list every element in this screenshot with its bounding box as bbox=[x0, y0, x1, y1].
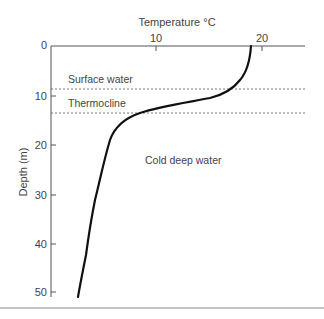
x-tick-label-20: 20 bbox=[256, 32, 268, 44]
y-axis-label: Depth (m) bbox=[17, 148, 29, 197]
surface-water-label: Surface water bbox=[68, 73, 133, 85]
y-tick-label-10: 10 bbox=[35, 90, 47, 102]
thermocline-label: Thermocline bbox=[68, 97, 126, 109]
y-tick-label-40: 40 bbox=[35, 238, 47, 250]
y-tick-label-20: 20 bbox=[35, 139, 47, 151]
y-tick-label-50: 50 bbox=[35, 286, 47, 298]
cold-deep-water-label: Cold deep water bbox=[145, 154, 222, 166]
y-tick-label-30: 30 bbox=[35, 189, 47, 201]
depth-temperature-chart: Temperature °C 10 20 0 10 20 30 40 50 De… bbox=[0, 0, 324, 319]
x-tick-label-10: 10 bbox=[150, 32, 162, 44]
chart-title: Temperature °C bbox=[138, 16, 215, 28]
y-tick-label-0: 0 bbox=[41, 39, 47, 51]
